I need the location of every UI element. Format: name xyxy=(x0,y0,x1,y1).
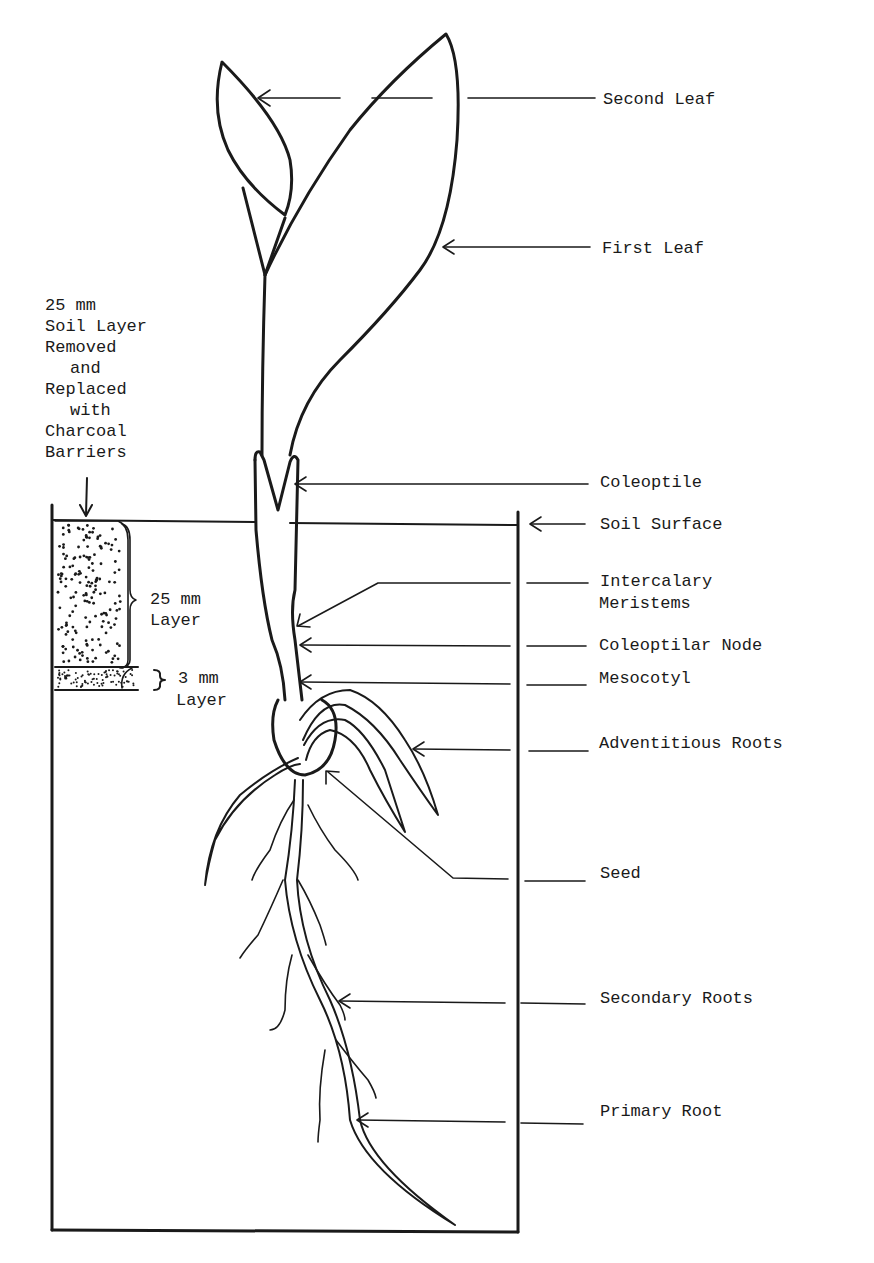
charcoal-dot xyxy=(86,660,89,663)
charcoal-dot xyxy=(81,685,83,687)
charcoal-dot xyxy=(72,557,75,560)
charcoal-dot xyxy=(59,679,61,681)
charcoal-dot xyxy=(74,572,77,575)
charcoal-dot xyxy=(92,678,94,680)
charcoal-dot xyxy=(91,531,94,534)
label-intercalary: Intercalary xyxy=(600,572,712,591)
charcoal-dot xyxy=(105,651,108,654)
charcoal-dot xyxy=(64,648,67,651)
charcoal-dot xyxy=(91,562,94,565)
charcoal-dot xyxy=(61,673,63,675)
charcoal-dot xyxy=(110,661,113,664)
charcoal-dot xyxy=(64,557,67,560)
charcoal-dot xyxy=(113,623,116,626)
charcoal-dot xyxy=(93,553,96,556)
label-coleoptilar-node: Coleoptilar Node xyxy=(599,636,762,655)
charcoal-dot xyxy=(85,643,88,646)
charcoal-dot xyxy=(57,677,59,679)
charcoal-dot xyxy=(66,630,69,633)
charcoal-dot xyxy=(58,606,61,609)
charcoal-dot xyxy=(120,682,122,684)
charcoal-dot xyxy=(62,553,65,556)
charcoal-dot xyxy=(81,683,83,685)
charcoal-dot xyxy=(87,673,89,675)
charcoal-dot xyxy=(115,684,117,686)
charcoal-dot xyxy=(84,616,87,619)
label-adventitious-roots: Adventitious Roots xyxy=(599,734,783,753)
charcoal-dot xyxy=(94,584,97,587)
charcoal-dot xyxy=(106,676,108,678)
charcoal-dot xyxy=(131,674,133,676)
charcoal-dot xyxy=(118,550,121,553)
charcoal-dot xyxy=(74,629,77,632)
charcoal-dot xyxy=(88,566,91,569)
charcoal-dot xyxy=(79,556,82,559)
charcoal-dot xyxy=(93,673,95,675)
charcoal-dot xyxy=(85,592,88,595)
svg-text:Soil Layer: Soil Layer xyxy=(45,317,147,336)
charcoal-dot xyxy=(57,628,60,631)
charcoal-dot xyxy=(96,678,98,680)
charcoal-dot xyxy=(58,672,60,674)
svg-text:and: and xyxy=(70,359,101,378)
charcoal-dot xyxy=(94,615,97,618)
charcoal-dot xyxy=(82,594,85,597)
charcoal-dot xyxy=(57,591,60,594)
brace-25mm xyxy=(122,524,136,668)
charcoal-dot xyxy=(114,674,116,676)
charcoal-dot xyxy=(62,660,65,663)
charcoal-dot xyxy=(86,657,89,660)
brace-3mm xyxy=(154,670,165,690)
soil-note: 25 mm Soil Layer Removed and Replaced wi… xyxy=(45,296,147,462)
svg-text:Charcoal: Charcoal xyxy=(45,422,127,441)
label-first-leaf: First Leaf xyxy=(602,239,704,258)
charcoal-dot xyxy=(119,600,122,603)
charcoal-dot xyxy=(63,671,65,673)
charcoal-dot xyxy=(90,681,92,683)
charcoal-dot xyxy=(72,626,75,629)
charcoal-dot xyxy=(87,671,89,673)
label-soil-surface: Soil Surface xyxy=(600,515,722,534)
leaders xyxy=(258,90,595,1127)
charcoal-dot xyxy=(79,658,82,661)
charcoal-dot xyxy=(126,680,128,682)
charcoal-dot xyxy=(123,671,125,673)
charcoal-dot xyxy=(78,652,81,655)
svg-text:Replaced: Replaced xyxy=(45,380,127,399)
charcoal-dot xyxy=(94,588,97,591)
charcoal-dot xyxy=(100,562,103,565)
charcoal-dot xyxy=(88,558,91,561)
charcoal-dot xyxy=(86,600,89,603)
charcoal-dot xyxy=(68,660,71,663)
charcoal-dot xyxy=(114,560,117,563)
charcoal-dot xyxy=(78,570,81,573)
charcoal-dot xyxy=(110,548,113,551)
charcoal-dot xyxy=(82,539,85,542)
first-leaf xyxy=(265,34,458,455)
charcoal-dot xyxy=(98,578,101,581)
charcoal-dot xyxy=(91,649,94,652)
charcoal-dot xyxy=(112,669,114,671)
charcoal-dot xyxy=(109,626,112,629)
charcoal-dot xyxy=(92,591,95,594)
charcoal-dot xyxy=(111,544,114,547)
charcoal-dot xyxy=(101,674,103,676)
charcoal-dot xyxy=(113,581,116,584)
charcoal-dot xyxy=(90,596,93,599)
part-labels: Second Leaf First Leaf Coleoptile Soil S… xyxy=(599,90,783,1121)
charcoal-dot xyxy=(118,681,120,683)
charcoal-dot xyxy=(105,632,108,635)
charcoal-dot xyxy=(85,535,88,538)
charcoal-dot xyxy=(113,654,116,657)
charcoal-dot xyxy=(60,572,63,575)
charcoal-dot xyxy=(58,669,60,671)
charcoal-dot xyxy=(92,569,95,572)
charcoal-dot xyxy=(67,669,69,671)
charcoal-dot xyxy=(88,531,91,534)
charcoal-dot xyxy=(59,577,62,580)
charcoal-dot xyxy=(116,642,119,645)
seedling-diagram: 25 mm Soil Layer Removed and Replaced wi… xyxy=(0,0,874,1263)
charcoal-barrier-3mm xyxy=(55,667,138,690)
svg-text:Barriers: Barriers xyxy=(45,443,127,462)
charcoal-dot xyxy=(69,566,72,569)
